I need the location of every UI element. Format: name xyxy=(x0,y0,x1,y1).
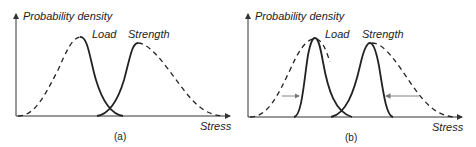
x-axis-label: Stress xyxy=(432,121,464,133)
panel-caption: (a) xyxy=(114,131,126,142)
panel-a: Probability density Stress Load Strength… xyxy=(16,10,232,142)
load-label: Load xyxy=(92,28,117,40)
strength-curve-solid xyxy=(97,43,138,116)
load-curve-dashed xyxy=(250,39,330,117)
load-label: Load xyxy=(325,28,350,40)
strength-curve-solid xyxy=(331,43,393,117)
load-strength-diagram: Probability density Stress Load Strength… xyxy=(0,0,476,147)
strength-label: Strength xyxy=(362,28,404,40)
load-curve-solid xyxy=(294,38,352,117)
x-axis-label: Stress xyxy=(200,120,232,132)
strength-curve-dashed xyxy=(372,43,455,117)
panel-b: Probability density Stress Load Strength… xyxy=(248,10,464,143)
panel-caption: (b) xyxy=(345,132,357,143)
load-curve-dashed xyxy=(18,37,80,116)
strength-curve-dashed xyxy=(138,43,224,116)
strength-label: Strength xyxy=(128,28,170,40)
load-curve-solid xyxy=(80,37,123,116)
y-axis-label: Probability density xyxy=(255,10,346,22)
y-axis-label: Probability density xyxy=(23,10,114,22)
